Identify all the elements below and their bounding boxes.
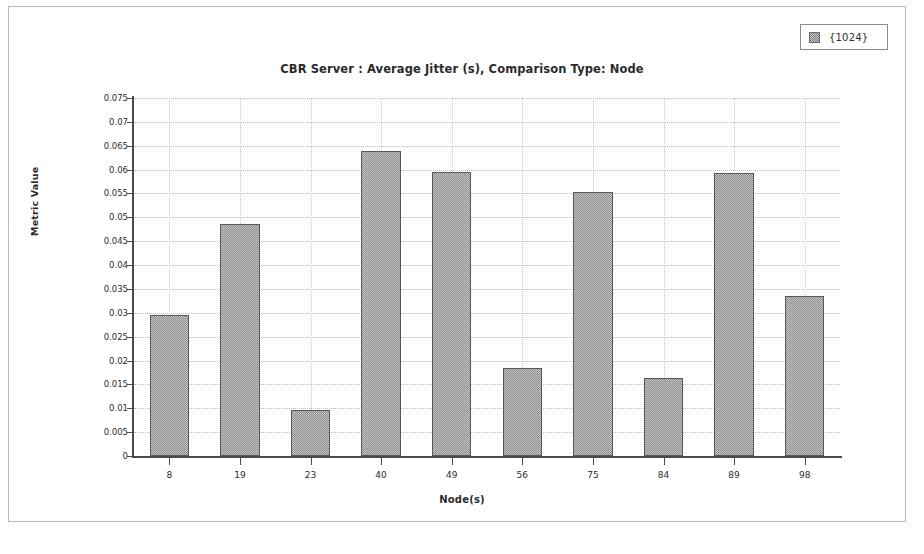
x-axis-line [132,456,842,458]
y-axis-tick-label: 0.01 [82,403,128,413]
x-axis-tick-label: 40 [351,470,411,480]
x-axis-tick-label: 98 [775,470,835,480]
bar[interactable] [714,173,754,456]
bar[interactable] [573,192,613,456]
y-axis-tick-label: 0.04 [82,260,128,270]
bar[interactable] [291,410,331,456]
plot-area [134,98,840,456]
page-footer-area [0,524,924,554]
y-axis-tick-label: 0.045 [82,236,128,246]
y-axis-tick-mark [127,98,133,99]
y-axis-tick-label: 0.05 [82,212,128,222]
y-axis-tick-mark [127,456,133,457]
x-axis-tick-mark [311,458,312,465]
y-axis-tick-mark [127,408,133,409]
y-axis-tick-mark [127,432,133,433]
x-axis-tick-label: 75 [563,470,623,480]
y-axis-tick-label: 0.015 [82,379,128,389]
x-axis-tick-label: 49 [422,470,482,480]
y-axis-tick-mark [127,146,133,147]
x-axis-tick-label: 84 [634,470,694,480]
y-axis-tick-label: 0.055 [82,188,128,198]
x-axis-tick-mark [452,458,453,465]
chart-window: {1024} CBR Server : Average Jitter (s), … [0,0,924,554]
x-axis-label: Node(s) [0,494,924,505]
bar[interactable] [220,224,260,456]
x-axis-tick-label: 8 [139,470,199,480]
x-axis-tick-mark [805,458,806,465]
bar[interactable] [150,315,190,456]
y-axis-label: Metric Value [29,146,40,236]
y-axis-tick-label: 0.035 [82,284,128,294]
bar[interactable] [361,151,401,456]
y-axis-tick-label: 0.02 [82,356,128,366]
bar[interactable] [785,296,825,456]
y-axis-tick-mark [127,313,133,314]
chart-title: CBR Server : Average Jitter (s), Compari… [0,62,924,76]
x-axis-tick-mark [169,458,170,465]
y-axis-tick-label: 0.03 [82,308,128,318]
x-axis-tick-label: 19 [210,470,270,480]
x-axis-tick-mark [664,458,665,465]
y-axis-tick-mark [127,361,133,362]
y-axis-tick-label: 0.075 [82,93,128,103]
x-axis-tick-mark [240,458,241,465]
y-axis-tick-mark [127,217,133,218]
x-axis-tick-mark [381,458,382,465]
y-axis-tick-label: 0.06 [82,165,128,175]
legend-swatch-icon [809,32,820,43]
chart-legend: {1024} [800,24,888,50]
x-axis-tick-mark [734,458,735,465]
y-axis-tick-mark [127,122,133,123]
y-axis-tick-mark [127,193,133,194]
bar[interactable] [644,378,684,456]
legend-item-label: {1024} [829,32,868,43]
y-axis-tick-mark [127,241,133,242]
y-axis-tick-mark [127,384,133,385]
x-axis-tick-label: 89 [704,470,764,480]
y-axis-tick-mark [127,265,133,266]
x-axis-tick-label: 23 [281,470,341,480]
y-axis-tick-mark [127,170,133,171]
bar[interactable] [503,368,543,456]
y-axis-tick-label: 0.025 [82,332,128,342]
y-axis-tick-label: 0.065 [82,141,128,151]
gridline-vertical [311,98,312,456]
bar[interactable] [432,172,472,456]
x-axis-tick-mark [522,458,523,465]
y-axis-tick-label: 0.005 [82,427,128,437]
y-axis-tick-mark [127,289,133,290]
y-axis-tick-label: 0.07 [82,117,128,127]
y-axis-tick-label: 0 [82,451,128,461]
y-axis-tick-mark [127,337,133,338]
x-axis-tick-mark [593,458,594,465]
x-axis-tick-label: 56 [492,470,552,480]
